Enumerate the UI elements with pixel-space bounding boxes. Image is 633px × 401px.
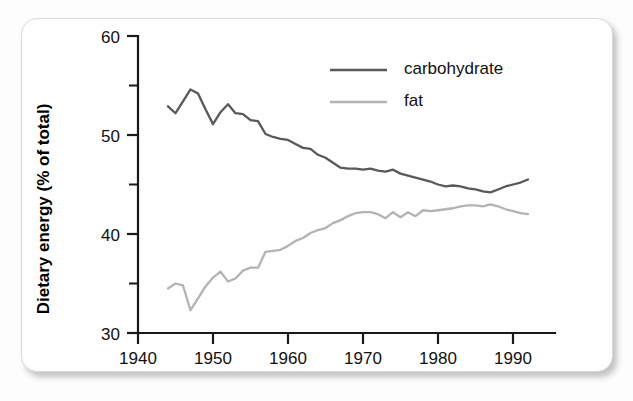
- legend-label-carbohydrate: carbohydrate: [404, 59, 503, 78]
- series-group: [168, 89, 528, 310]
- y-tick-label-40: 40: [101, 226, 120, 245]
- x-tick-label-1960: 1960: [269, 349, 307, 368]
- x-tick-label-1940: 1940: [119, 349, 157, 368]
- x-tick-label-1970: 1970: [344, 349, 382, 368]
- y-axis-ticks: 60 50 40 30: [101, 28, 138, 344]
- figure-root: Dietary energy (% of total) 60 50 40 30: [0, 0, 633, 401]
- y-tick-label-30: 30: [101, 325, 120, 344]
- x-axis-ticks: 1940 1950 1960 1970 1980 1990: [119, 333, 532, 368]
- line-chart: Dietary energy (% of total) 60 50 40 30: [22, 19, 614, 373]
- x-tick-label-1980: 1980: [419, 349, 457, 368]
- series-line-carbohydrate: [168, 89, 528, 192]
- legend: carbohydrate fat: [330, 59, 503, 110]
- y-tick-label-50: 50: [101, 127, 120, 146]
- x-tick-label-1950: 1950: [194, 349, 232, 368]
- series-line-fat: [168, 204, 528, 310]
- chart-card: Dietary energy (% of total) 60 50 40 30: [21, 18, 613, 372]
- x-tick-label-1990: 1990: [494, 349, 532, 368]
- axes: [138, 36, 555, 333]
- y-axis-title: Dietary energy (% of total): [34, 104, 53, 315]
- legend-label-fat: fat: [404, 91, 423, 110]
- y-tick-label-60: 60: [101, 28, 120, 47]
